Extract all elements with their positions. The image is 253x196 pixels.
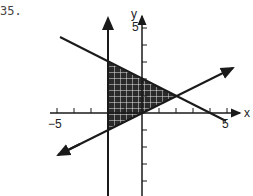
y-tick-label-5: 5 (132, 20, 139, 34)
y-axis-label: y (131, 7, 137, 21)
increasing-line-tail (58, 144, 80, 155)
inequality-graph: x y 5 −5 5 (0, 0, 253, 196)
x-tick-label-max: 5 (222, 117, 229, 131)
x-tick-label-min: −5 (48, 117, 62, 131)
x-axis-label: x (244, 106, 250, 120)
